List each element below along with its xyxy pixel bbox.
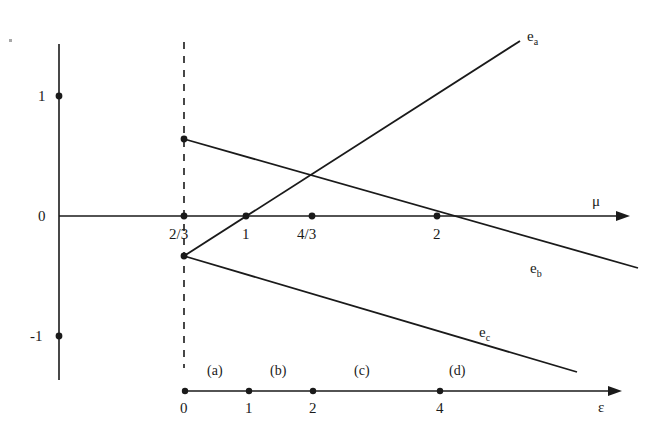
main-axes	[59, 44, 630, 380]
curve-e-c	[184, 256, 577, 372]
curve-e-b	[184, 139, 638, 268]
epsilon-interval-label-d: (d)	[449, 364, 465, 378]
point-mu-two	[434, 213, 441, 220]
mu-axis-arrowhead	[616, 211, 630, 221]
epsilon-tick-label-0: 0	[180, 401, 188, 416]
curve-label-e-c-base: e	[479, 324, 486, 340]
epsilon-interval-label-b: (b)	[270, 364, 286, 378]
y-tick-label-1: 1	[38, 89, 46, 104]
epsilon-tick-label-4: 4	[436, 401, 444, 416]
point-two-thirds	[181, 213, 188, 220]
mu-axis-label: μ	[592, 194, 600, 209]
epsilon-tick-label-1: 1	[245, 401, 253, 416]
point-mu-four-thirds	[309, 213, 316, 220]
epsilon-axis-arrowhead	[608, 386, 622, 396]
curve-label-e-a-sub: a	[534, 36, 538, 47]
point-y-plus-one	[56, 93, 63, 100]
curve-label-e-b: eb	[530, 261, 542, 279]
epsilon-axis-group	[182, 386, 622, 396]
epsilon-interval-label-a: (a)	[207, 364, 223, 378]
curve-label-e-c: ec	[479, 325, 490, 343]
epsilon-tick-point-4	[437, 388, 443, 394]
curve-label-e-b-sub: b	[537, 268, 542, 279]
point-eb-start	[181, 136, 188, 143]
x-tick-label-two-thirds: 2/3	[169, 227, 188, 242]
epsilon-tick-point-0	[182, 388, 188, 394]
figure-vector-layer	[0, 0, 650, 448]
point-ea-ec-start	[181, 253, 188, 260]
curve-label-e-b-base: e	[530, 260, 537, 276]
y-tick-label-0: 0	[38, 209, 46, 224]
y-tick-label-minus-1: -1	[30, 329, 43, 344]
x-tick-label-four-thirds: 4/3	[297, 227, 316, 242]
epsilon-tick-label-2: 2	[309, 401, 317, 416]
curve-e-a	[184, 41, 520, 256]
point-y-minus-one	[56, 333, 63, 340]
epsilon-interval-label-c: (c)	[354, 364, 370, 378]
curve-label-e-c-sub: c	[486, 332, 490, 343]
x-tick-label-one: 1	[242, 227, 250, 242]
point-mu-one	[243, 213, 250, 220]
x-tick-label-two: 2	[433, 227, 441, 242]
curve-label-e-a: ea	[527, 29, 538, 47]
epsilon-tick-point-2	[310, 388, 316, 394]
epsilon-tick-point-1	[246, 388, 252, 394]
curve-label-e-a-base: e	[527, 28, 534, 44]
epsilon-axis-label: ε	[598, 400, 604, 415]
figure-canvas: 1 0 -1 2/3 1 4/3 2 μ ea eb ec (a) (b) (c…	[0, 0, 650, 448]
